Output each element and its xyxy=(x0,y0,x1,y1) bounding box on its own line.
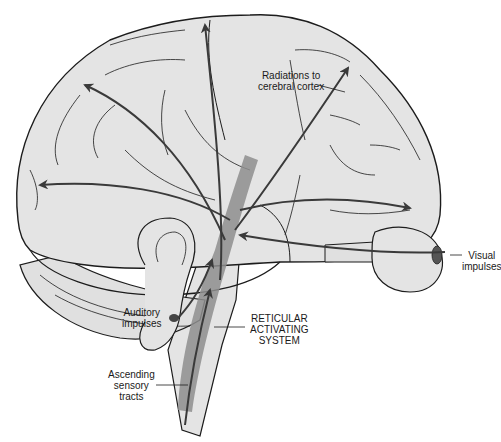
label-visual-line1: Visual xyxy=(462,250,501,261)
label-visual-line2: impulses xyxy=(462,261,501,272)
label-ascending-line3: tracts xyxy=(108,391,155,402)
label-radiations-line1: Radiations to xyxy=(258,70,324,81)
label-auditory-line1: Auditory xyxy=(122,307,161,318)
label-ras-line3: SYSTEM xyxy=(250,335,309,346)
label-ascending-line1: Ascending xyxy=(108,369,155,380)
label-auditory-line2: impulses xyxy=(122,318,161,329)
label-ascending-line2: sensory xyxy=(108,380,155,391)
label-ras: RETICULAR ACTIVATING SYSTEM xyxy=(250,313,309,346)
label-radiations: Radiations to cerebral cortex xyxy=(258,70,324,92)
brain-diagram xyxy=(0,0,501,442)
label-ras-line1: RETICULAR xyxy=(250,313,309,324)
label-radiations-line2: cerebral cortex xyxy=(258,81,324,92)
label-auditory: Auditory impulses xyxy=(122,307,161,329)
label-ras-line2: ACTIVATING xyxy=(250,324,309,335)
label-ascending: Ascending sensory tracts xyxy=(108,369,155,402)
label-visual: Visual impulses xyxy=(462,250,501,272)
